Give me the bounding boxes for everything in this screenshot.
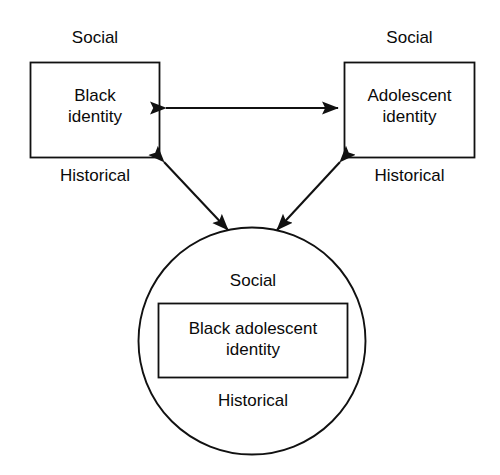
right-circle-connector	[277, 162, 340, 230]
circle-social-caption: Social	[161, 270, 345, 291]
right-box-historical-caption: Historical	[344, 165, 475, 186]
right-box-social-caption: Social	[344, 27, 475, 48]
left-box-label: Black identity	[34, 85, 156, 127]
left-circle-connector	[164, 162, 228, 230]
circle-historical-caption: Historical	[161, 390, 345, 411]
left-box-historical-caption: Historical	[30, 165, 160, 186]
right-box-label: Adolescent identity	[348, 85, 471, 127]
diagram-canvas: Social Black identity Historical Social …	[0, 0, 500, 475]
left-box-social-caption: Social	[30, 27, 160, 48]
circle-inner-box-label: Black adolescent identity	[161, 318, 345, 360]
